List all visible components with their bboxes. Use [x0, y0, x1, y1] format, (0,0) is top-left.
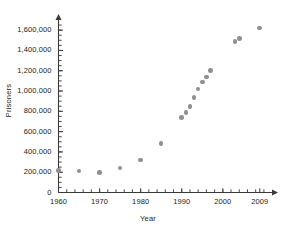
- x-axis-arrowhead: [272, 190, 278, 196]
- scatter-chart: 0200,000400,000600,000800,0001,000,0001,…: [0, 0, 293, 234]
- x-axis-title: Year: [118, 214, 178, 223]
- ticks-layer: [58, 25, 264, 192]
- x-axis-tick-label: 2000: [206, 197, 240, 206]
- axes-layer: [56, 14, 279, 196]
- data-point: [184, 110, 189, 115]
- y-axis-tick-label: 200,000: [0, 167, 52, 176]
- x-axis-tick-label: 2009: [243, 197, 277, 206]
- data-point: [56, 168, 61, 173]
- data-point: [204, 75, 209, 80]
- y-axis-arrowhead: [56, 14, 62, 20]
- data-point: [208, 68, 213, 73]
- y-axis-tick-label: 1,400,000: [0, 45, 52, 54]
- data-point: [97, 170, 102, 175]
- x-axis-tick-label: 1990: [165, 197, 199, 206]
- data-point: [179, 115, 184, 120]
- y-axis-tick-label: 400,000: [0, 147, 52, 156]
- y-axis-tick-label: 1,200,000: [0, 66, 52, 75]
- data-point: [237, 36, 242, 41]
- x-axis-tick-label: 1960: [42, 197, 76, 206]
- y-axis-tick-label: 0: [0, 188, 52, 197]
- y-axis-tick-label: 600,000: [0, 127, 52, 136]
- y-axis-title: Prisoners: [4, 75, 13, 127]
- data-point: [188, 104, 193, 109]
- x-axis-tick-label: 1980: [124, 197, 158, 206]
- data-point: [200, 80, 205, 85]
- x-axis-tick-label: 1970: [83, 197, 117, 206]
- y-axis-tick-label: 1,600,000: [0, 25, 52, 34]
